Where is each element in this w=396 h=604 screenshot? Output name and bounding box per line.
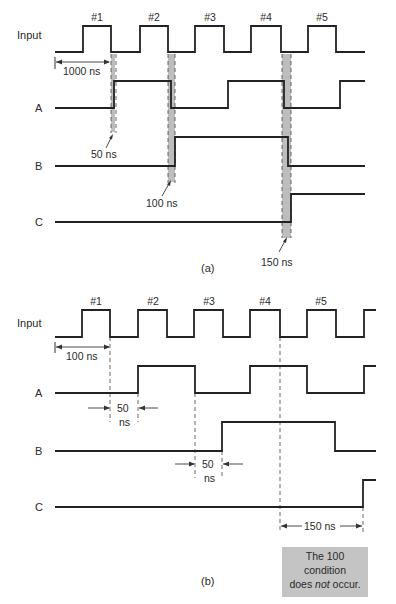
timing-diagram-figure: #1 #2 #3 #4 #5 Input A B C 1000 ns 50 ns — [0, 0, 396, 604]
pulse-label-2: #2 — [148, 11, 160, 23]
waveform-b — [55, 422, 376, 451]
note-line-2: condition — [304, 564, 346, 576]
delay-callout-100ns: 100 ns — [146, 180, 178, 209]
note-line-3: does not occur. — [289, 578, 360, 590]
waveform-c — [55, 194, 365, 222]
delay-a-unit: ns — [119, 416, 130, 428]
pulse-label-5: #5 — [316, 11, 328, 23]
panel-a: #1 #2 #3 #4 #5 Input A B C 1000 ns 50 ns — [17, 11, 365, 274]
pulse-label-3: #3 — [203, 295, 215, 307]
delay-label-50ns: 50 ns — [91, 148, 117, 160]
signal-label-input: Input — [17, 317, 41, 329]
signal-label-input: Input — [17, 29, 41, 41]
delay-label-100ns: 100 ns — [146, 197, 178, 209]
delay-label-150ns: 150 ns — [261, 256, 293, 268]
waveform-c — [55, 480, 376, 507]
pulse-label-1: #1 — [90, 295, 102, 307]
period-dimension: 1000 ns — [55, 57, 110, 77]
delay-band-100ns — [168, 54, 175, 182]
delay-dimension-b: 50 ns — [175, 458, 243, 484]
panel-b: #1 #2 #3 #4 #5 Input A B C 100 ns 50 — [17, 295, 376, 597]
delay-b-value: 50 — [202, 458, 214, 470]
waveform-input — [55, 310, 376, 337]
waveform-a — [55, 81, 365, 108]
delay-callout-150ns: 150 ns — [261, 237, 293, 268]
period-dimension: 100 ns — [55, 342, 110, 362]
note-box: The 100 condition does not occur. — [282, 547, 368, 597]
note-line-1: The 100 — [306, 550, 345, 562]
waveform-a — [55, 366, 376, 393]
panel-b-caption: (b) — [201, 575, 214, 587]
signal-label-a: A — [35, 102, 43, 114]
period-label: 100 ns — [66, 350, 98, 362]
period-label: 1000 ns — [63, 65, 100, 77]
signal-label-c: C — [35, 216, 43, 228]
pulse-label-2: #2 — [147, 295, 159, 307]
delay-a-value: 50 — [117, 402, 129, 414]
signal-label-b: B — [35, 445, 42, 457]
panel-a-caption: (a) — [201, 262, 214, 274]
delay-dimension-c: 150 ns — [281, 520, 362, 532]
delay-b-unit: ns — [204, 472, 215, 484]
pulse-label-4: #4 — [259, 295, 271, 307]
delay-callout-50ns: 50 ns — [91, 134, 117, 160]
pulse-label-1: #1 — [91, 11, 103, 23]
signal-label-a: A — [35, 387, 43, 399]
waveform-input — [55, 26, 365, 52]
signal-label-c: C — [35, 501, 43, 513]
delay-c-label: 150 ns — [304, 520, 336, 532]
pulse-label-4: #4 — [260, 11, 272, 23]
delay-dimension-a: 50 ns — [88, 402, 158, 428]
signal-label-b: B — [35, 160, 42, 172]
pulse-label-3: #3 — [204, 11, 216, 23]
pulse-label-5: #5 — [315, 295, 327, 307]
